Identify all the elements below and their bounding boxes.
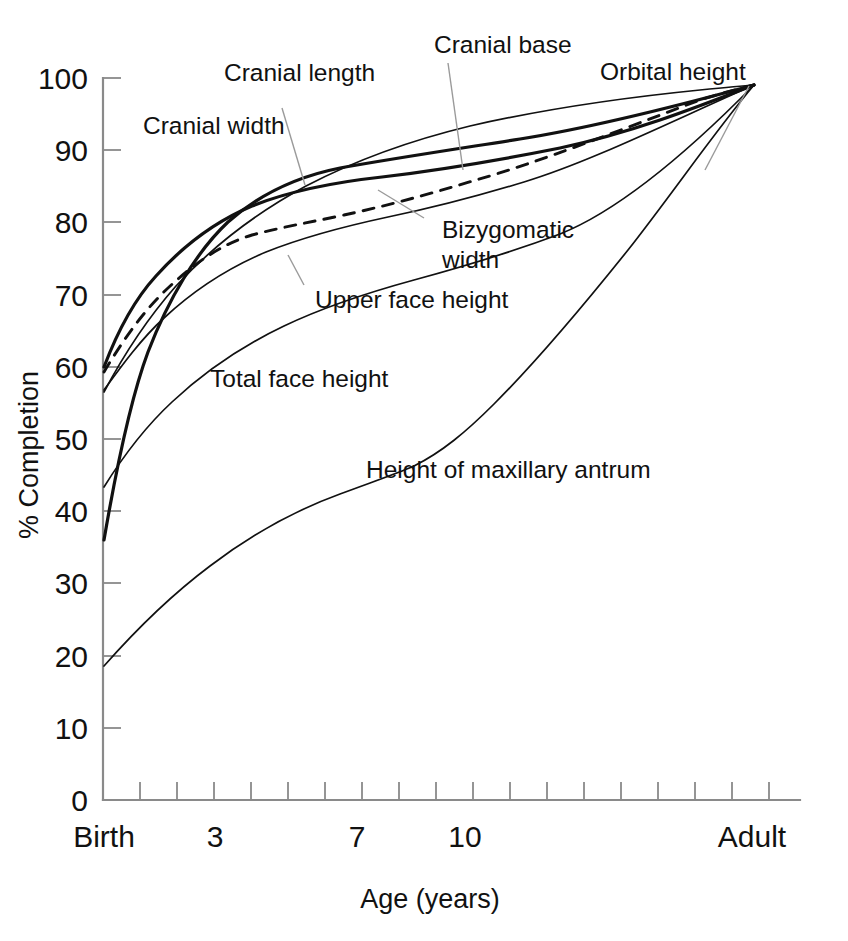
label-total-face-height: Total face height bbox=[210, 365, 389, 392]
label-cranial-base: Cranial base bbox=[434, 31, 572, 58]
x-tick-label-7: 7 bbox=[349, 820, 366, 853]
series-labels: Cranial width Cranial length Cranial bas… bbox=[143, 31, 746, 483]
y-tick-label-50: 50 bbox=[55, 423, 88, 456]
y-tick-label-10: 10 bbox=[55, 712, 88, 745]
y-axis-title: % Completion bbox=[14, 371, 44, 539]
y-tick-label-80: 80 bbox=[55, 206, 88, 239]
label-bizygomatic-width-line2: width bbox=[441, 246, 499, 273]
chart-container: 100 90 80 70 60 50 40 30 20 10 0 Birth 3… bbox=[0, 0, 848, 941]
y-tick-label-60: 60 bbox=[55, 351, 88, 384]
leader-orbital-height bbox=[705, 86, 749, 170]
y-tick-label-70: 70 bbox=[55, 279, 88, 312]
x-tick-marks bbox=[140, 782, 769, 800]
series-curves bbox=[104, 85, 754, 666]
label-maxillary-antrum: Height of maxillary antrum bbox=[366, 456, 651, 483]
x-tick-label-10: 10 bbox=[448, 820, 481, 853]
leader-cranial-length bbox=[282, 108, 305, 185]
x-tick-label-3: 3 bbox=[207, 820, 224, 853]
y-tick-label-100: 100 bbox=[38, 62, 88, 95]
label-cranial-length: Cranial length bbox=[224, 59, 375, 86]
label-upper-face-height: Upper face height bbox=[315, 286, 509, 313]
x-tick-labels: Birth 3 7 10 Adult bbox=[73, 820, 787, 853]
annotation-leaders bbox=[282, 63, 749, 285]
y-tick-label-90: 90 bbox=[55, 134, 88, 167]
x-axis-title: Age (years) bbox=[360, 884, 500, 914]
label-orbital-height: Orbital height bbox=[600, 58, 746, 85]
label-cranial-width: Cranial width bbox=[143, 112, 285, 139]
leader-upper-face-height bbox=[288, 255, 304, 285]
label-bizygomatic-width-line1: Bizygomatic bbox=[442, 216, 574, 243]
growth-completion-line-chart: 100 90 80 70 60 50 40 30 20 10 0 Birth 3… bbox=[0, 0, 848, 941]
x-tick-label-adult: Adult bbox=[718, 820, 787, 853]
y-tick-marks bbox=[103, 78, 121, 728]
x-tick-label-birth: Birth bbox=[73, 820, 135, 853]
y-tick-label-0: 0 bbox=[71, 784, 88, 817]
y-tick-label-20: 20 bbox=[55, 640, 88, 673]
y-tick-label-30: 30 bbox=[55, 567, 88, 600]
y-tick-labels: 100 90 80 70 60 50 40 30 20 10 0 bbox=[38, 62, 88, 817]
y-tick-label-40: 40 bbox=[55, 495, 88, 528]
leader-cranial-base bbox=[448, 63, 463, 170]
